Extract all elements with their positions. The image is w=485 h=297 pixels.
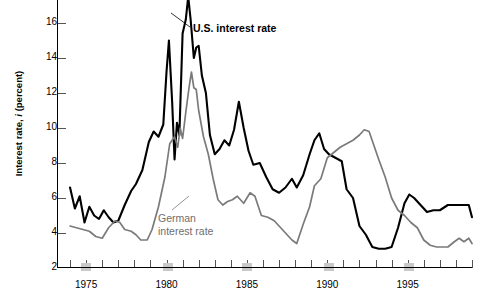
us-interest-rate-line (70, 0, 472, 249)
german-series-annotation: German interest rate (158, 212, 213, 238)
german-interest-rate-line (70, 72, 472, 247)
german-annotation-line2: interest rate (158, 225, 213, 238)
german-annotation-leader-line (172, 196, 189, 210)
plot-area (0, 0, 485, 297)
interest-rate-chart: Interest rate, i (percent) 246810121416 … (0, 0, 485, 297)
us-series-annotation: U.S. interest rate (193, 22, 276, 35)
german-annotation-line1: German (158, 212, 213, 225)
